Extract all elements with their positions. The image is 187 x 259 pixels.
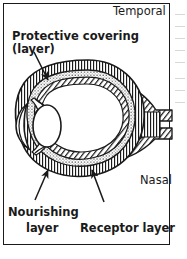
label-nourishing-layer-line2: layer bbox=[26, 221, 59, 235]
lens bbox=[33, 105, 61, 147]
label-receptor-layer: Receptor layer bbox=[80, 221, 175, 235]
leader-nourishing-layer bbox=[35, 170, 48, 200]
label-nasal: Nasal bbox=[140, 173, 172, 187]
label-protective-covering-line2: (layer) bbox=[12, 42, 55, 56]
figure-root: Protective covering (layer) Nourishing l… bbox=[0, 0, 187, 259]
eye-cross-section-diagram: Protective covering (layer) Nourishing l… bbox=[0, 0, 187, 259]
label-temporal: Temporal bbox=[112, 4, 166, 18]
label-nourishing-layer-line1: Nourishing bbox=[8, 205, 79, 219]
label-protective-covering-line1: Protective covering bbox=[12, 29, 139, 43]
